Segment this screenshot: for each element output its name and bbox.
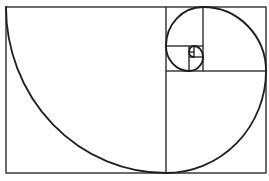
golden-spiral-diagram (0, 0, 269, 181)
background (0, 0, 269, 181)
